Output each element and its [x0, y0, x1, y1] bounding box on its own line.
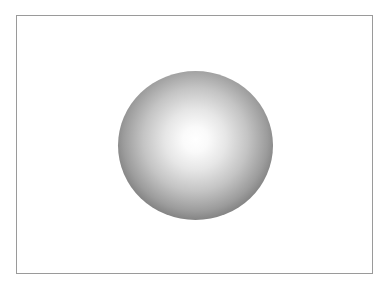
canvas	[0, 0, 391, 288]
shaded-sphere	[118, 71, 273, 220]
